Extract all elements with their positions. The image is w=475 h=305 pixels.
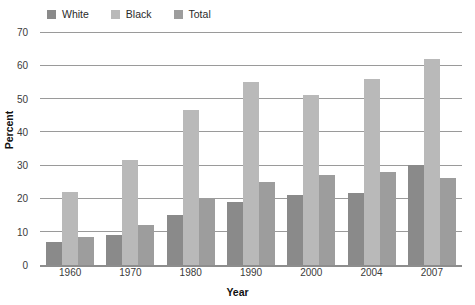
y-tick-label: 40 bbox=[17, 126, 28, 137]
y-tick-label: 20 bbox=[17, 193, 28, 204]
bar-black-2004 bbox=[364, 79, 380, 265]
bar-white-1960 bbox=[46, 242, 62, 265]
bar-total-1960 bbox=[78, 237, 94, 265]
bar-total-2004 bbox=[380, 172, 396, 265]
bar-white-2007 bbox=[408, 165, 424, 265]
y-axis-title: Percent bbox=[3, 85, 15, 175]
x-tick-label: 1960 bbox=[59, 267, 81, 278]
legend-label: Total bbox=[189, 8, 211, 20]
bar-black-1970 bbox=[122, 160, 138, 265]
legend-label: White bbox=[62, 8, 89, 20]
bar-white-1990 bbox=[227, 202, 243, 265]
x-tick-label: 1980 bbox=[180, 267, 202, 278]
bar-white-1970 bbox=[106, 235, 122, 265]
bar-black-1960 bbox=[62, 192, 78, 265]
y-tick-label: 50 bbox=[17, 93, 28, 104]
bar-black-2000 bbox=[303, 95, 319, 265]
bar-total-2007 bbox=[440, 178, 456, 265]
bar-total-1980 bbox=[199, 198, 215, 265]
bar-white-2000 bbox=[287, 195, 303, 265]
bar-white-2004 bbox=[348, 193, 364, 265]
legend-swatch-black bbox=[111, 10, 120, 19]
legend-entry: White bbox=[47, 8, 89, 20]
bar-total-1970 bbox=[138, 225, 154, 265]
legend-entry: Black bbox=[111, 8, 152, 20]
legend-swatch-white bbox=[47, 10, 56, 19]
bar-total-2000 bbox=[319, 175, 335, 265]
plot-area-bars bbox=[40, 32, 462, 265]
y-tick-label: 60 bbox=[17, 60, 28, 71]
x-axis-labels: 1960197019801990200020042007 bbox=[40, 267, 462, 283]
y-tick-label: 0 bbox=[22, 260, 28, 271]
bar-black-1980 bbox=[183, 110, 199, 265]
x-tick-label: 1970 bbox=[119, 267, 141, 278]
y-tick-label: 70 bbox=[17, 27, 28, 38]
legend-label: Black bbox=[126, 8, 152, 20]
x-tick-label: 1990 bbox=[240, 267, 262, 278]
y-tick-label: 10 bbox=[17, 226, 28, 237]
x-tick-label: 2004 bbox=[360, 267, 382, 278]
y-tick-label: 30 bbox=[17, 160, 28, 171]
legend-swatch-total bbox=[174, 10, 183, 19]
bar-black-2007 bbox=[424, 59, 440, 265]
legend-entry: Total bbox=[174, 8, 211, 20]
bar-chart: WhiteBlackTotal 010203040506070 19601970… bbox=[0, 0, 475, 305]
x-tick-label: 2007 bbox=[421, 267, 443, 278]
bar-white-1980 bbox=[167, 215, 183, 265]
bar-total-1990 bbox=[259, 182, 275, 265]
x-axis-title: Year bbox=[0, 286, 475, 298]
bar-black-1990 bbox=[243, 82, 259, 265]
chart-legend: WhiteBlackTotal bbox=[47, 6, 233, 22]
x-tick-label: 2000 bbox=[300, 267, 322, 278]
